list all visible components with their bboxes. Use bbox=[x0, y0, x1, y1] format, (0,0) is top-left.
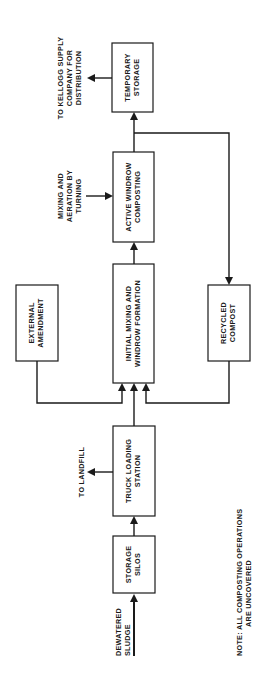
box-storage-silos: STORAGE SILOS bbox=[113, 536, 155, 593]
label-text: DEWATERED bbox=[114, 608, 123, 656]
arrow-head-icon bbox=[130, 516, 138, 524]
box-temporary-storage: TEMPORARY STORAGE bbox=[112, 43, 153, 112]
arrow-head-icon bbox=[130, 112, 138, 120]
arrow-head-icon bbox=[130, 383, 138, 391]
amendment-to-mixing-line bbox=[37, 361, 122, 403]
box-label: TRUCK LOADING bbox=[124, 439, 133, 503]
arrow-head-icon bbox=[87, 74, 95, 82]
recycle-to-mixing-line bbox=[146, 361, 229, 403]
label-text: COMPANY FOR bbox=[65, 49, 74, 106]
arrow-head-icon bbox=[225, 277, 233, 285]
label-mixing-aeration: MIXING AND AERATION BY TURNING bbox=[56, 170, 83, 222]
label-dewatered-sludge: DEWATERED SLUDGE bbox=[114, 608, 132, 656]
note-text: ARE UNCOVERED bbox=[244, 560, 253, 627]
box-recycled-compost: RECYCLED COMPOST bbox=[208, 285, 250, 361]
box-label: STORAGE bbox=[124, 546, 133, 584]
label-text: TURNING bbox=[74, 178, 83, 213]
box-label: COMPOSTING bbox=[133, 171, 142, 223]
box-initial-mixing: INITIAL MIXING AND WINDROW FORMATION bbox=[113, 264, 154, 383]
box-label: STORAGE bbox=[132, 59, 141, 97]
box-label: COMPOST bbox=[228, 303, 237, 342]
label-to-landfill: TO LANDFILL bbox=[77, 447, 86, 498]
box-label: TEMPORARY bbox=[123, 53, 132, 101]
arrow-head-icon bbox=[87, 468, 95, 476]
label-text: SLUDGE bbox=[123, 624, 132, 656]
label-to-kellogg: TO KELLOGG SUPPLY COMPANY FOR DISTRIBUTI… bbox=[56, 37, 83, 120]
arrow-head-icon bbox=[130, 242, 138, 250]
box-label: AMENDMENT bbox=[36, 298, 45, 348]
label-text: AERATION BY bbox=[65, 170, 74, 222]
box-label: STATION bbox=[133, 455, 142, 488]
box-truck-loading-station: TRUCK LOADING STATION bbox=[113, 426, 155, 516]
box-label: RECYCLED bbox=[219, 302, 228, 344]
label-text: TO KELLOGG SUPPLY bbox=[56, 37, 65, 120]
box-label: ACTIVE WINDROW bbox=[124, 162, 133, 231]
label-text: MIXING AND bbox=[56, 173, 65, 219]
note: NOTE: ALL COMPOSTING OPERATIONS ARE UNCO… bbox=[235, 509, 253, 656]
arrow-head-icon bbox=[118, 383, 126, 391]
box-label: INITIAL MIXING AND bbox=[124, 286, 133, 361]
box-label: SILOS bbox=[133, 553, 142, 576]
arrow-head-icon bbox=[142, 383, 150, 391]
box-active-windrow-composting: ACTIVE WINDROW COMPOSTING bbox=[113, 152, 154, 242]
arrow-head-icon bbox=[105, 192, 113, 200]
label-text: TO LANDFILL bbox=[77, 447, 86, 498]
note-text: NOTE: ALL COMPOSTING OPERATIONS bbox=[235, 509, 244, 656]
composting-process-flow-diagram: STORAGE SILOS TRUCK LOADING STATION INIT… bbox=[0, 0, 268, 699]
box-label: EXTERNAL bbox=[27, 302, 36, 343]
box-label: WINDROW FORMATION bbox=[133, 280, 142, 367]
label-text: DISTRIBUTION bbox=[74, 51, 83, 106]
box-external-amendment: EXTERNAL AMENDMENT bbox=[16, 285, 58, 361]
arrow-head-icon bbox=[130, 594, 138, 602]
